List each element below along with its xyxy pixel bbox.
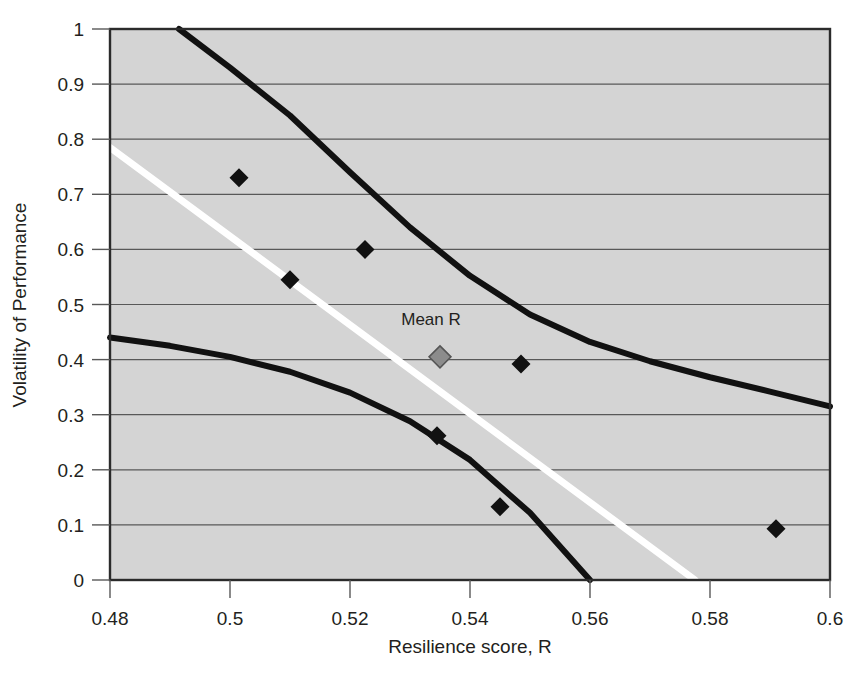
y-tick-label: 0.9 — [58, 74, 84, 95]
y-axis-ticks — [92, 29, 110, 580]
scatter-plot: 0.480.50.520.540.560.580.6 00.10.20.30.4… — [0, 0, 864, 681]
x-tick-label: 0.58 — [692, 608, 729, 629]
y-axis-tick-labels: 00.10.20.30.40.50.60.70.80.91 — [58, 19, 85, 591]
y-tick-label: 0.5 — [58, 295, 84, 316]
x-tick-label: 0.5 — [217, 608, 243, 629]
y-tick-label: 0.3 — [58, 405, 84, 426]
y-tick-label: 0.6 — [58, 239, 84, 260]
y-tick-label: 0.7 — [58, 184, 84, 205]
x-axis-title: Resilience score, R — [388, 636, 552, 657]
x-tick-label: 0.6 — [817, 608, 843, 629]
y-tick-label: 1 — [73, 19, 84, 40]
y-tick-label: 0.8 — [58, 129, 84, 150]
x-tick-label: 0.48 — [92, 608, 129, 629]
x-tick-label: 0.56 — [572, 608, 609, 629]
x-tick-label: 0.52 — [332, 608, 369, 629]
y-tick-label: 0.1 — [58, 515, 84, 536]
y-tick-label: 0.4 — [58, 350, 85, 371]
y-tick-label: 0.2 — [58, 460, 84, 481]
annotation-mean-r: Mean R — [401, 310, 461, 329]
chart-annotations: Mean R — [401, 310, 461, 329]
x-axis-tick-labels: 0.480.50.520.540.560.580.6 — [92, 608, 844, 629]
x-axis-ticks — [110, 580, 830, 598]
chart-figure: 0.480.50.520.540.560.580.6 00.10.20.30.4… — [0, 0, 864, 681]
y-axis-title: Volatility of Performance — [9, 203, 30, 408]
x-tick-label: 0.54 — [452, 608, 489, 629]
y-tick-label: 0 — [73, 570, 84, 591]
